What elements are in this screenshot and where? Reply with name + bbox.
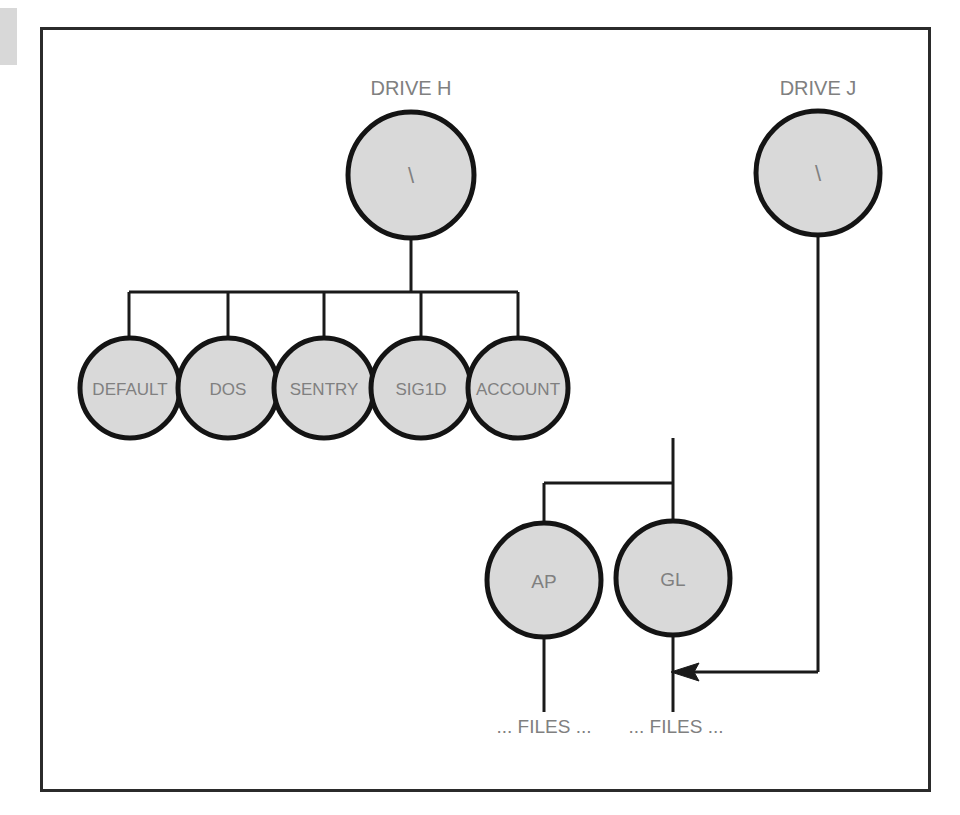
node-label-account: ACCOUNT [476,380,560,399]
node-dos[interactable]: DOS [178,338,278,438]
directory-tree-diagram: \ DRIVE H \ DRIVE J DEFAULT DOS SENTRY S… [0,0,960,815]
node-label-gl: GL [660,569,685,590]
node-label-dos: DOS [210,380,247,399]
node-label-sig1d: SIG1D [395,380,446,399]
drive-j-caption: DRIVE J [780,77,857,99]
scan-edge-smudge [0,8,17,65]
node-label-sentry: SENTRY [290,380,359,399]
drive-h-caption: DRIVE H [370,77,451,99]
diagram-canvas: \ DRIVE H \ DRIVE J DEFAULT DOS SENTRY S… [0,0,960,815]
node-label-root-j: \ [815,161,822,186]
node-default[interactable]: DEFAULT [80,338,180,438]
node-label-ap: AP [531,571,556,592]
files-label-ap: ... FILES ... [496,716,591,737]
node-root-drive-j[interactable]: \ [756,111,880,235]
connector-lines [129,235,818,712]
node-label-root-h: \ [408,163,415,188]
files-label-gl: ... FILES ... [628,716,723,737]
node-sig1d[interactable]: SIG1D [371,338,471,438]
node-root-drive-h[interactable]: \ [348,112,474,238]
node-sentry[interactable]: SENTRY [274,338,374,438]
node-ap[interactable]: AP [487,523,601,637]
node-label-default: DEFAULT [92,380,167,399]
node-gl[interactable]: GL [616,521,730,635]
node-account[interactable]: ACCOUNT [468,338,568,438]
